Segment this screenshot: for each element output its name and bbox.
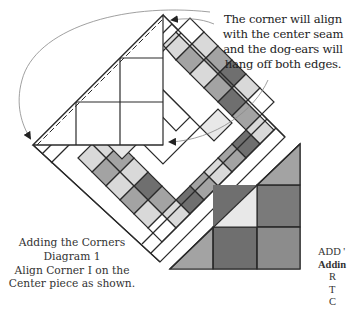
caption-line-4: Center piece as shown. [0,277,144,291]
side-line-4: T [318,284,346,297]
caption-subtitle: Diagram 1 [0,250,144,264]
caption-line-3: Align Corner I on the [0,264,144,278]
diagram-caption: Adding the Corners Diagram 1 Align Corne… [0,236,144,291]
side-text-cropped: ADD ' Addin R T C [318,246,346,309]
callout-line-3: and the dog-ears will [218,42,348,57]
callout-line-2: with the center seam [218,27,348,42]
corner-piece-top [33,15,163,145]
callout-line-4: hang off both edges. [218,57,348,72]
side-line-3: R [318,271,346,284]
side-line-5: C [318,296,346,309]
callout-line-1: The corner will align [218,12,348,27]
side-line-1: ADD ' [318,246,346,259]
caption-title: Adding the Corners [0,236,144,250]
side-line-2: Addin [318,259,346,272]
callout-text: The corner will align with the center se… [218,12,348,72]
